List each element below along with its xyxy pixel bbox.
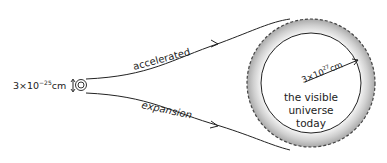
diagram-svg: 3×10−25cm accelerated expansion 3×1027cm… xyxy=(0,0,387,163)
accelerated-label: accelerated xyxy=(132,46,192,72)
universe-label-line1: the visible xyxy=(284,91,338,103)
start-size-arrow xyxy=(71,79,75,92)
inflation-diagram: 3×10−25cm accelerated expansion 3×1027cm… xyxy=(0,0,387,163)
expansion-label: expansion xyxy=(141,99,193,120)
universe-label-line2: universe xyxy=(288,104,333,116)
start-size-label: 3×10−25cm xyxy=(13,79,66,91)
universe-label-line3: today xyxy=(296,117,326,129)
initial-universe-sphere xyxy=(76,80,87,91)
